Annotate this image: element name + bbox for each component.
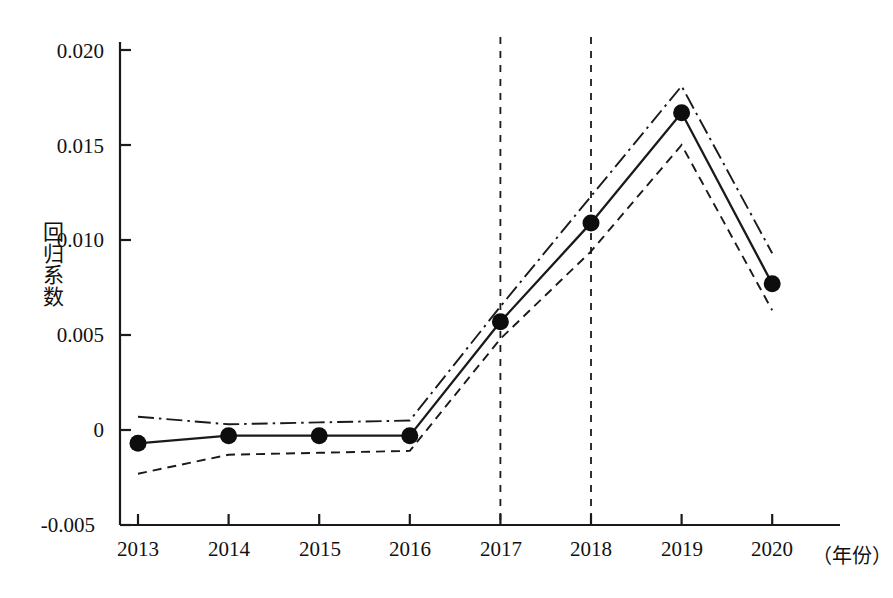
data-point-2019 xyxy=(673,104,690,121)
data-point-2014 xyxy=(220,427,237,444)
regression-coefficient-chart: 回 归 系 数 0.020 0.015 0.010 0.005 0 -0.005… xyxy=(0,0,893,598)
data-point-2013 xyxy=(130,435,147,452)
data-point-2016 xyxy=(401,427,418,444)
plot-area xyxy=(0,0,893,598)
data-point-2017 xyxy=(492,313,509,330)
data-point-2015 xyxy=(311,427,328,444)
series-line-1 xyxy=(138,86,772,424)
data-point-2020 xyxy=(764,275,781,292)
data-point-2018 xyxy=(583,214,600,231)
